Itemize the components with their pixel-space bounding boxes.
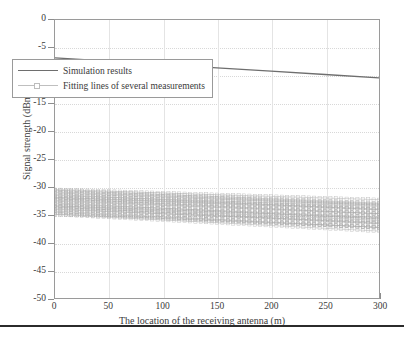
bottom-divider — [0, 325, 404, 327]
chart-legend: Simulation results Fitting lines of seve… — [12, 59, 213, 98]
y-tick-label: -5 — [6, 42, 46, 52]
legend-swatch-simulation — [18, 65, 58, 77]
y-tick-label: -45 — [6, 266, 46, 276]
legend-item-simulation: Simulation results — [18, 63, 205, 78]
legend-swatch-fitting — [18, 80, 58, 92]
y-tick-label: 0 — [6, 14, 46, 24]
figure-chart: Signal strength (dBm) 0-5-10-15-20-25-30… — [0, 0, 404, 338]
x-tick-label: 100 — [141, 302, 185, 312]
y-tick-label: -25 — [6, 154, 46, 164]
x-tick-label: 200 — [249, 302, 293, 312]
y-tick-label: -35 — [6, 210, 46, 220]
y-tick-mark — [48, 299, 54, 300]
y-tick-label: -30 — [6, 182, 46, 192]
legend-item-fitting: Fitting lines of several measurements — [18, 78, 205, 93]
legend-label-simulation: Simulation results — [63, 66, 132, 76]
x-tick-label: 50 — [86, 302, 130, 312]
x-tick-mark — [380, 293, 381, 299]
y-tick-label: -40 — [6, 238, 46, 248]
fitting-lines-band — [55, 188, 379, 233]
x-tick-label: 150 — [195, 302, 239, 312]
x-tick-label: 250 — [304, 302, 348, 312]
y-tick-label: -20 — [6, 126, 46, 136]
x-tick-label: 0 — [32, 302, 76, 312]
square-marker-icon — [34, 83, 40, 89]
legend-label-fitting: Fitting lines of several measurements — [63, 81, 205, 91]
y-tick-label: -15 — [6, 98, 46, 108]
x-tick-label: 300 — [358, 302, 402, 312]
